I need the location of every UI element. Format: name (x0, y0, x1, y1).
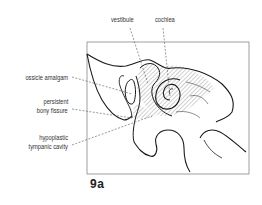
ossicle-amalgam-outline (125, 79, 135, 104)
label-hypoplastic-tympanic-cavity-line1: hypoplastic (39, 134, 68, 142)
label-ossicle-amalgam: ossicle amalgam (25, 74, 68, 82)
lower-right-inner (204, 140, 222, 158)
lower-right-outline (200, 130, 246, 152)
inner-ear-hatched-region (137, 63, 214, 116)
label-vestibule: vestibule (111, 16, 134, 24)
ear-anatomy-drawing (0, 0, 262, 205)
ear-anatomy-figure: vestibule cochlea ossicle amalgam persis… (0, 0, 262, 205)
label-cochlea: cochlea (155, 16, 175, 24)
label-persistent-bony-fissure-line1: persistent (43, 98, 68, 106)
leader-hypoplastic-tympanic-cavity (72, 116, 152, 145)
leader-ossicle-amalgam (72, 77, 132, 94)
label-hypoplastic-tympanic-cavity-line2: tympanic cavity (29, 143, 68, 151)
label-persistent-bony-fissure-line2: bony fissure (37, 107, 68, 115)
figure-number: 9a (90, 177, 104, 191)
lower-bone-outline (134, 130, 190, 172)
leader-persistent-bony-fissure (72, 109, 132, 118)
